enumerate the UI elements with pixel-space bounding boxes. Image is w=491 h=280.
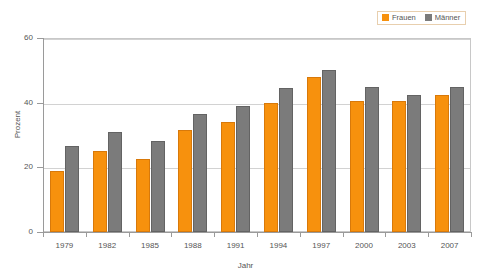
legend-label-frauen: Frauen [392,14,416,22]
x-axis-tick-label: 1979 [44,241,84,250]
x-axis-tick-label: 2003 [387,241,427,250]
x-axis-tick [343,232,344,237]
x-axis-tick [428,232,429,237]
x-axis-tick-label: 1988 [173,241,213,250]
bar-männer-1985 [151,141,165,232]
x-axis-tick [43,232,44,237]
x-axis-tick [129,232,130,237]
y-axis-tick-label: 0 [3,227,33,236]
bar-männer-1988 [193,114,207,232]
bar-männer-2000 [365,87,379,233]
bar-frauen-1997 [307,77,321,232]
x-axis-tick-label: 1985 [130,241,170,250]
y-axis-tick-label: 60 [3,33,33,42]
x-axis-tick-label: 1991 [216,241,256,250]
bar-männer-1982 [108,132,122,232]
x-axis-tick [257,232,258,237]
gridline [44,39,470,40]
x-axis-tick [214,232,215,237]
x-axis-title: Jahr [0,261,491,270]
bar-frauen-1979 [50,171,64,232]
legend-swatch-maenner [425,14,432,21]
bar-frauen-1988 [178,130,192,232]
y-axis-tick [37,167,43,168]
legend-entry-maenner: Männer [425,14,460,22]
x-axis-tick [385,232,386,237]
x-axis-tick [171,232,172,237]
bar-männer-2007 [450,87,464,233]
bar-frauen-1985 [136,159,150,232]
x-axis-tick [471,232,472,237]
chart-legend: Frauen Männer [377,11,466,25]
bar-frauen-1994 [264,103,278,232]
legend-entry-frauen: Frauen [382,14,416,22]
legend-swatch-frauen [382,14,389,21]
y-axis-tick-label: 40 [3,98,33,107]
bar-männer-1979 [65,146,79,232]
x-axis-tick [300,232,301,237]
x-axis-tick-label: 1982 [87,241,127,250]
y-axis-line [43,38,44,232]
bar-frauen-1982 [93,151,107,232]
bar-männer-2003 [407,95,421,232]
x-axis-tick-label: 1997 [301,241,341,250]
x-axis-tick [86,232,87,237]
x-axis-tick-label: 2000 [344,241,384,250]
x-axis-tick-label: 1994 [258,241,298,250]
bar-frauen-2003 [392,101,406,232]
y-axis-tick [37,38,43,39]
bar-männer-1997 [322,70,336,232]
bar-frauen-1991 [221,122,235,232]
bar-chart: Frauen Männer Prozent Jahr 0204060197919… [0,0,491,280]
y-axis-tick-label: 20 [3,162,33,171]
bar-frauen-2000 [350,101,364,232]
legend-label-maenner: Männer [435,14,460,22]
x-axis-tick-label: 2007 [430,241,470,250]
bar-männer-1991 [236,106,250,232]
bar-männer-1994 [279,88,293,232]
bar-frauen-2007 [435,95,449,232]
y-axis-tick [37,103,43,104]
